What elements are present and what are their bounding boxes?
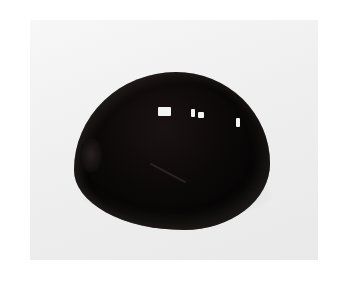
specular-highlight	[158, 107, 171, 116]
specular-highlight	[198, 112, 204, 118]
specular-highlight	[236, 118, 240, 127]
stone-edge-reflection	[80, 138, 102, 172]
specular-highlight	[191, 109, 195, 117]
